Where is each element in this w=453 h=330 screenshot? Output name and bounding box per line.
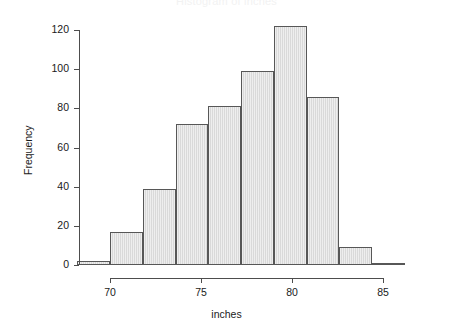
y-axis-line <box>79 30 80 265</box>
x-axis-tick <box>383 278 384 283</box>
histogram-bar <box>339 247 372 265</box>
x-axis-tick-label: 70 <box>90 286 130 298</box>
x-axis-tick-label: 80 <box>272 286 312 298</box>
x-axis-title: inches <box>0 308 453 320</box>
x-axis-line <box>110 278 383 279</box>
x-axis-tick-label: 85 <box>363 286 403 298</box>
plot-area <box>0 0 453 330</box>
y-axis-title: Frequency <box>22 125 34 175</box>
histogram-bar <box>77 261 110 265</box>
histogram-bar <box>176 124 209 265</box>
y-axis-tick <box>74 108 79 109</box>
histogram-figure: Histogram of inches 02040608010012070758… <box>0 0 453 330</box>
histogram-bar <box>372 263 405 265</box>
y-axis-tick <box>74 226 79 227</box>
histogram-bar <box>110 232 143 265</box>
y-axis-tick-label: 20 <box>35 219 69 231</box>
histogram-bar <box>241 71 274 265</box>
x-axis-tick-label: 75 <box>181 286 221 298</box>
y-axis-tick-label: 120 <box>35 23 69 35</box>
y-axis-tick-label: 0 <box>35 258 69 270</box>
histogram-bar <box>143 189 176 265</box>
y-axis-tick <box>74 30 79 31</box>
histogram-bar <box>208 106 241 265</box>
y-axis-tick-label: 100 <box>35 62 69 74</box>
histogram-bar <box>307 97 340 265</box>
y-axis-tick <box>74 265 79 266</box>
y-axis-tick <box>74 148 79 149</box>
y-axis-tick <box>74 187 79 188</box>
y-axis-tick-label: 80 <box>35 101 69 113</box>
x-axis-tick <box>201 278 202 283</box>
y-axis-tick-label: 60 <box>35 141 69 153</box>
y-axis-tick-label: 40 <box>35 180 69 192</box>
x-axis-tick <box>110 278 111 283</box>
y-axis-tick <box>74 69 79 70</box>
histogram-bar <box>274 26 307 265</box>
x-axis-tick <box>292 278 293 283</box>
